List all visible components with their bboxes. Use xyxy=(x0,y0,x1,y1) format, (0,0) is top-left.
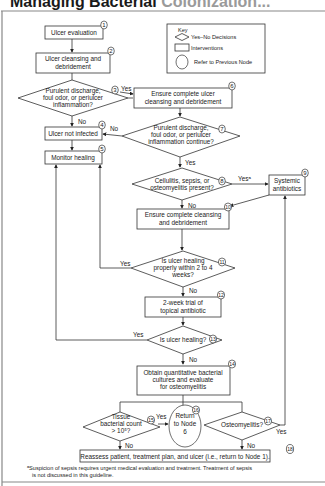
svg-text:cultures and evaluate: cultures and evaluate xyxy=(153,376,214,383)
node-14-cultures: Obtain quantitative bacterial cultures a… xyxy=(137,360,236,395)
svg-text:for osteomyelitis: for osteomyelitis xyxy=(160,383,206,391)
svg-text:cleansing and debridement: cleansing and debridement xyxy=(145,98,222,106)
svg-text:2-week trial of: 2-week trial of xyxy=(163,299,203,306)
edge-label-n17-yes: Yes xyxy=(276,428,286,435)
node-2-cleansing: Ulcer cleansing and debridement 2 xyxy=(36,47,114,73)
svg-text:15: 15 xyxy=(148,417,154,423)
svg-text:Ensure complete ulcer: Ensure complete ulcer xyxy=(151,90,215,98)
node-4-not-infected: Ulcer not infected 4 xyxy=(45,121,105,140)
edge-label-n7-no: No xyxy=(110,125,119,132)
node-3-decision: Purulent discharge, foul odor, or periul… xyxy=(18,80,128,116)
node-1-ulcer-evaluation: Ulcer evaluation 1 xyxy=(45,21,107,39)
node-15-decision: Tissue bacterial count > 10⁵? 15 xyxy=(83,412,160,441)
svg-text:Osteomyelitis?: Osteomyelitis? xyxy=(221,421,263,429)
svg-text:13: 13 xyxy=(210,336,216,342)
svg-text:Reassess patient, treatment pl: Reassess patient, treatment plan, and ul… xyxy=(80,453,270,461)
node-12-topical-antibiotic: 2-week trial of topical antibiotic 12 xyxy=(145,291,225,317)
svg-text:14: 14 xyxy=(229,361,235,367)
svg-text:Monitor healing: Monitor healing xyxy=(51,154,95,162)
rectangle-icon xyxy=(175,44,189,51)
svg-text:Tissue: Tissue xyxy=(112,413,131,420)
node-10-ensure-cleansing: Ensure complete cleansing and debridemen… xyxy=(137,203,232,229)
svg-text:12: 12 xyxy=(218,292,224,298)
svg-text:topical antibiotic: topical antibiotic xyxy=(160,307,206,315)
node-11-decision: Is ulcer healing properly within 2 to 4 … xyxy=(131,251,235,287)
svg-text:Ensure complete cleansing: Ensure complete cleansing xyxy=(145,211,222,219)
edge-label-n11-no: No xyxy=(189,287,198,294)
edge-label-n13-no: No xyxy=(189,356,198,363)
edge-label-n17-no: No xyxy=(247,442,256,449)
svg-text:11: 11 xyxy=(219,259,224,265)
edge-label-n13-yes: Yes xyxy=(133,331,143,338)
svg-text:Ulcer cleansing and: Ulcer cleansing and xyxy=(45,55,102,63)
svg-text:antibiotics: antibiotics xyxy=(273,185,301,192)
node-13-decision: Is ulcer healing? 13 xyxy=(147,326,222,354)
svg-text:weeks?: weeks? xyxy=(171,271,194,278)
legend-intervention: Interventions xyxy=(191,45,223,51)
footnote-line-2: is not discussed in this guideline. xyxy=(32,472,114,478)
legend-refer: Refer to Previous Node xyxy=(194,59,252,65)
node-6-ensure-complete: Ensure complete ulcer cleansing and debr… xyxy=(134,82,235,108)
edge-label-n3-yes: Yes xyxy=(121,85,131,92)
node-5-monitor-healing: Monitor healing 5 xyxy=(45,145,105,164)
edge-label-n11-yes: Yes xyxy=(120,260,130,267)
svg-text:6: 6 xyxy=(183,428,187,435)
node-8-decision: Cellulitis, sepsis, or osteomyelitis pre… xyxy=(132,168,232,200)
flowchart: Key Yes–No Decisions Interventions Refer… xyxy=(0,0,325,486)
svg-text:and debridement: and debridement xyxy=(159,219,207,226)
edge-label-n3-no: No xyxy=(78,118,87,125)
edge-label-n7-yes: Yes xyxy=(185,159,195,166)
oval-icon xyxy=(176,55,188,69)
edge-label-n15-no: No xyxy=(125,442,134,449)
node-16-return-to-node-6: Return to Node 6 16 xyxy=(169,405,201,447)
edge-label-n8-no: No xyxy=(188,202,197,209)
svg-text:debridement: debridement xyxy=(55,63,91,70)
svg-text:10: 10 xyxy=(225,204,231,210)
node-17-decision: Osteomyelitis? 17 xyxy=(204,412,280,440)
edge-label-n8-yes: Yesᵃ xyxy=(238,175,251,182)
svg-text:Ulcer evaluation: Ulcer evaluation xyxy=(51,29,97,36)
svg-text:> 10⁵?: > 10⁵? xyxy=(112,427,131,434)
node-7-decision: Purulent discharge, foul odor, or periul… xyxy=(122,117,240,157)
legend-heading: Key xyxy=(178,27,188,33)
svg-text:bacterial count: bacterial count xyxy=(100,420,142,427)
legend: Key Yes–No Decisions Interventions Refer… xyxy=(167,24,265,73)
svg-text:Return: Return xyxy=(175,412,195,419)
edge-label-n15-yes: Yes xyxy=(156,413,166,420)
footnote-line-1: ᵃSuspicion of sepsis requires urgent med… xyxy=(27,465,252,471)
svg-text:Systemic: Systemic xyxy=(274,177,301,185)
svg-text:Is ulcer healing?: Is ulcer healing? xyxy=(160,336,207,344)
legend-decision: Yes–No Decisions xyxy=(191,34,236,40)
svg-text:inflammation?: inflammation? xyxy=(53,101,93,108)
svg-text:17: 17 xyxy=(265,418,271,424)
svg-text:osteomyelitis present?: osteomyelitis present? xyxy=(150,184,214,192)
svg-text:Ulcer not infected: Ulcer not infected xyxy=(48,130,98,137)
svg-text:16: 16 xyxy=(193,407,199,413)
svg-text:18: 18 xyxy=(287,446,293,452)
svg-text:inflammation continue?: inflammation continue? xyxy=(148,138,214,145)
svg-text:to Node: to Node xyxy=(174,420,197,427)
node-9-systemic-antibiotics: Systemic antibiotics 9 xyxy=(269,169,308,195)
